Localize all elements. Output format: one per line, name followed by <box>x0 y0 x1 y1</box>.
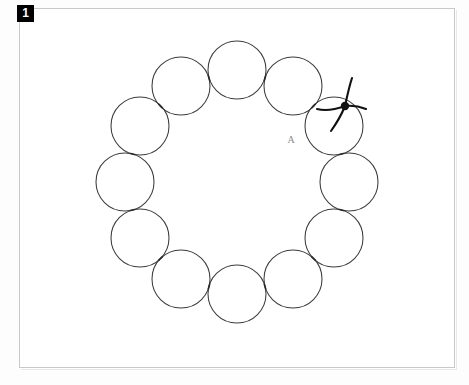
circle-ring-group <box>96 41 378 323</box>
branch-arm-up-right <box>345 78 352 106</box>
tangency-tick-9 <box>130 209 136 211</box>
tangency-tick-11 <box>158 104 162 108</box>
diagram-canvas: A <box>0 0 469 385</box>
tangency-tick-12 <box>208 75 210 81</box>
tangency-tick-7 <box>208 284 210 290</box>
figure-root: 1 A <box>0 0 469 385</box>
ring-circle-c10 <box>96 153 154 211</box>
tangency-tick-1 <box>264 75 266 81</box>
tangency-tick-8 <box>158 256 162 260</box>
tangency-tick-4 <box>339 209 345 211</box>
branch-node-group <box>317 78 366 131</box>
tangency-tick-6 <box>264 284 266 290</box>
tangency-tick-3 <box>339 153 345 155</box>
branch-node-blob <box>341 102 349 110</box>
branch-arm-left <box>317 106 345 110</box>
point-label-a: A <box>287 134 295 145</box>
tangency-tick-5 <box>311 256 315 260</box>
ring-circle-c7 <box>208 265 266 323</box>
tangency-tick-10 <box>130 153 136 155</box>
tangency-tick-2 <box>311 104 315 108</box>
ring-circle-c1 <box>208 41 266 99</box>
panel-number-badge: 1 <box>17 5 34 22</box>
tangency-tick-group <box>130 75 345 289</box>
ring-circle-c4 <box>320 153 378 211</box>
